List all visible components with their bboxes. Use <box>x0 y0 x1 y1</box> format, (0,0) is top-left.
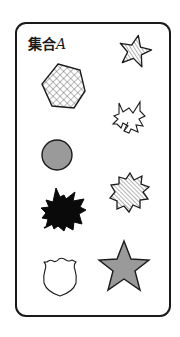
white-maple-leaf-icon <box>113 102 145 133</box>
hatched-starburst-icon <box>110 173 149 212</box>
small-hatched-star-icon <box>116 32 154 68</box>
white-shield-icon <box>44 258 77 296</box>
gray-circle-icon <box>42 140 72 170</box>
black-maple-leaf-icon <box>41 188 86 231</box>
crosshatch-hexagon-icon <box>42 64 85 108</box>
large-gray-star-icon <box>99 241 149 290</box>
